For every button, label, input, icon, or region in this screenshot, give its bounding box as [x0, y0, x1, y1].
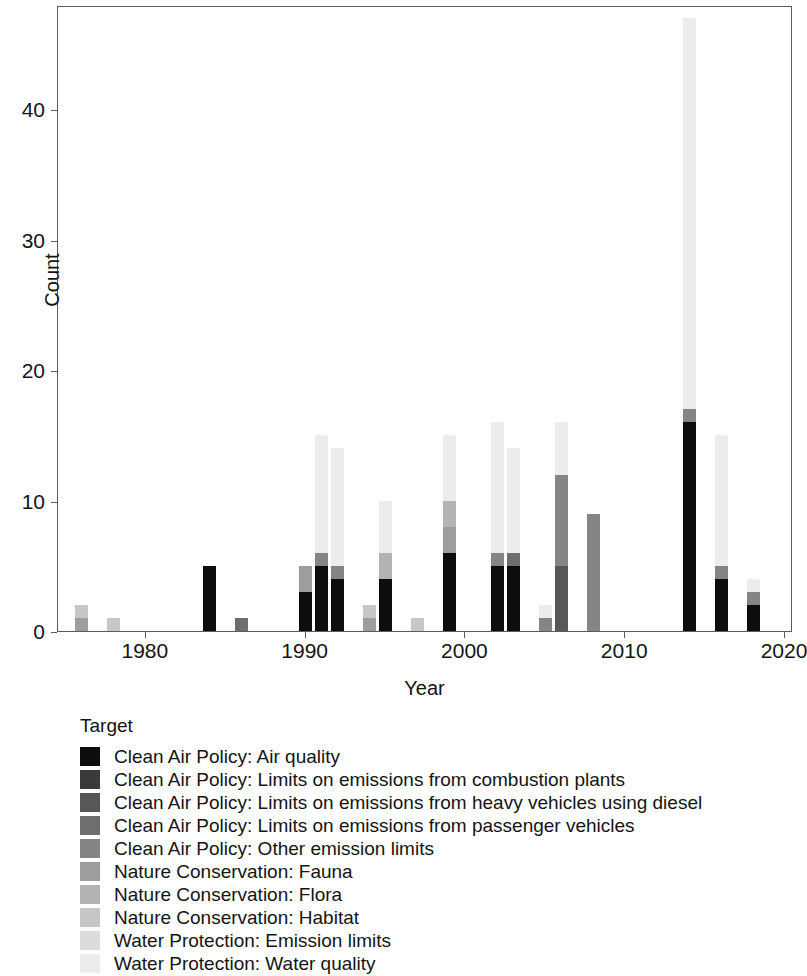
legend-swatch-icon: [80, 770, 100, 789]
y-axis-tick-label: 0: [33, 621, 45, 642]
x-axis-tick-mark: [624, 632, 625, 638]
bar-2002: [491, 422, 504, 631]
bar-segment: [379, 579, 392, 631]
bar-segment: [555, 566, 568, 631]
bar-segment: [411, 618, 424, 631]
plot-panel: [57, 6, 792, 632]
legend-entry: Clean Air Policy: Limits on emissions fr…: [80, 768, 790, 791]
legend-entry-label: Nature Conservation: Fauna: [114, 862, 353, 881]
y-axis-tick-mark: [51, 110, 57, 111]
x-axis-tick-label: 2000: [441, 640, 488, 661]
legend-entry-label: Nature Conservation: Flora: [114, 885, 342, 904]
y-axis-tick-mark: [51, 502, 57, 503]
bar-segment: [555, 475, 568, 566]
bar-segment: [315, 566, 328, 631]
legend-swatch-icon: [80, 793, 100, 812]
legend-swatch-icon: [80, 862, 100, 881]
legend-entry-label: Clean Air Policy: Limits on emissions fr…: [114, 770, 625, 789]
bar-1986: [235, 618, 248, 631]
bar-segment: [491, 553, 504, 566]
bar-segment: [715, 579, 728, 631]
bar-1994: [363, 605, 376, 631]
bar-segment: [299, 566, 312, 592]
legend-entry-label: Nature Conservation: Habitat: [114, 908, 359, 927]
bar-segment: [107, 618, 120, 631]
bar-segment: [203, 566, 216, 631]
legend-entry-list: Clean Air Policy: Air qualityClean Air P…: [80, 745, 790, 975]
bar-segment: [683, 18, 696, 409]
legend-entry-label: Clean Air Policy: Air quality: [114, 747, 340, 766]
legend-entry: Nature Conservation: Habitat: [80, 906, 790, 929]
legend-entry: Clean Air Policy: Limits on emissions fr…: [80, 814, 790, 837]
bar-segment: [587, 514, 600, 631]
bar-segment: [539, 618, 552, 631]
x-axis-tick-mark: [305, 632, 306, 638]
x-axis-tick-mark: [784, 632, 785, 638]
bar-1995: [379, 501, 392, 631]
legend-swatch-icon: [80, 816, 100, 835]
bar-segment: [315, 553, 328, 566]
bar-segment: [75, 618, 88, 631]
legend-entry-label: Water Protection: Emission limits: [114, 931, 391, 950]
bar-segment: [331, 579, 344, 631]
bar-2006: [555, 422, 568, 631]
bar-segment: [507, 448, 520, 552]
bar-segment: [315, 435, 328, 552]
legend-swatch-icon: [80, 931, 100, 950]
legend-entry-label: Clean Air Policy: Limits on emissions fr…: [114, 816, 635, 835]
bar-1976: [75, 605, 88, 631]
plot-area: [58, 7, 791, 631]
bar-segment: [443, 527, 456, 553]
x-axis-tick-mark: [145, 632, 146, 638]
bar-segment: [747, 579, 760, 592]
legend-entry-label: Clean Air Policy: Other emission limits: [114, 839, 434, 858]
bar-segment: [235, 618, 248, 631]
x-axis-tick-label: 1990: [281, 640, 328, 661]
bar-segment: [75, 605, 88, 618]
bar-2008: [587, 514, 600, 631]
bar-segment: [747, 592, 760, 605]
bar-2003: [507, 448, 520, 631]
bar-2018: [747, 579, 760, 631]
legend-entry: Nature Conservation: Fauna: [80, 860, 790, 883]
legend-title: Target: [80, 716, 790, 735]
legend-entry: Clean Air Policy: Limits on emissions fr…: [80, 791, 790, 814]
legend-swatch-icon: [80, 839, 100, 858]
legend-entry-label: Clean Air Policy: Limits on emissions fr…: [114, 793, 702, 812]
y-axis-label: Count: [42, 220, 62, 340]
y-axis-tick-label: 10: [22, 491, 45, 512]
bar-1999: [443, 435, 456, 631]
legend-entry: Nature Conservation: Flora: [80, 883, 790, 906]
y-axis-tick-label: 40: [22, 99, 45, 120]
bar-1997: [411, 618, 424, 631]
bar-segment: [443, 553, 456, 631]
bar-segment: [491, 422, 504, 552]
bar-1990: [299, 566, 312, 631]
bar-segment: [331, 566, 344, 579]
bar-segment: [491, 566, 504, 631]
bar-segment: [715, 435, 728, 565]
bar-segment: [683, 422, 696, 631]
bar-segment: [379, 501, 392, 553]
legend: Target Clean Air Policy: Air qualityClea…: [80, 716, 790, 975]
bar-segment: [715, 566, 728, 579]
bar-segment: [443, 435, 456, 500]
bar-1978: [107, 618, 120, 631]
x-axis-tick-mark: [464, 632, 465, 638]
x-axis-label: Year: [57, 678, 792, 698]
legend-swatch-icon: [80, 885, 100, 904]
legend-entry-label: Water Protection: Water quality: [114, 954, 376, 973]
bar-segment: [363, 605, 376, 618]
legend-entry: Clean Air Policy: Other emission limits: [80, 837, 790, 860]
bar-segment: [331, 448, 344, 565]
bar-segment: [299, 592, 312, 631]
legend-entry: Clean Air Policy: Air quality: [80, 745, 790, 768]
bar-segment: [747, 605, 760, 631]
legend-swatch-icon: [80, 954, 100, 973]
bar-1984: [203, 566, 216, 631]
bar-segment: [555, 422, 568, 474]
x-axis-tick-label: 1980: [122, 640, 169, 661]
legend-entry: Water Protection: Water quality: [80, 952, 790, 975]
bar-2005: [539, 605, 552, 631]
